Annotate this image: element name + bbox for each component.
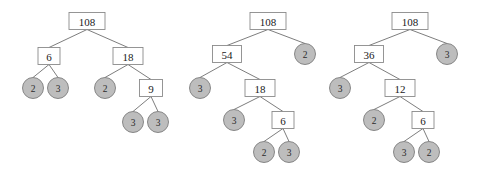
node-value-label: 9	[148, 83, 154, 95]
tree-node-108: 108	[250, 13, 286, 30]
tree-node-3: 3	[330, 78, 351, 99]
tree-node-3: 3	[48, 78, 69, 99]
factor-trees-canvas: 10861823293310854231836231083633122632	[0, 0, 480, 173]
node-value-label: 36	[364, 49, 376, 61]
node-value-label: 3	[402, 148, 407, 158]
node-value-label: 2	[31, 84, 36, 94]
tree-1-nodes: 108618232933	[23, 13, 169, 133]
tree-node-2: 2	[23, 78, 44, 99]
tree-node-6: 6	[38, 48, 60, 65]
tree-node-3: 3	[279, 142, 300, 163]
factor-trees-figure: 10861823293310854231836231083633122632	[0, 0, 480, 173]
node-value-label: 18	[255, 83, 267, 95]
tree-edge	[268, 30, 305, 44]
node-value-label: 3	[338, 84, 343, 94]
tree-node-18: 18	[113, 48, 143, 65]
tree-node-3: 3	[224, 110, 245, 131]
tree-node-2: 2	[364, 110, 385, 131]
node-value-label: 2	[103, 84, 108, 94]
node-value-label: 108	[402, 16, 419, 28]
node-value-label: 3	[131, 118, 136, 128]
tree-edge	[133, 97, 151, 112]
node-value-label: 6	[420, 115, 426, 127]
tree-node-3: 3	[437, 44, 458, 65]
tree-3-nodes: 1083633122632	[330, 13, 458, 163]
tree-edge	[200, 63, 227, 78]
tree-node-3: 3	[394, 142, 415, 163]
tree-node-2: 2	[254, 142, 275, 163]
tree-edge	[260, 97, 283, 112]
tree-edge	[369, 63, 400, 80]
tree-node-36: 36	[355, 46, 384, 63]
tree-edge	[227, 30, 268, 46]
tree-edge	[374, 97, 400, 110]
node-value-label: 2	[303, 50, 308, 60]
node-value-label: 6	[280, 115, 286, 127]
tree-edge	[404, 129, 423, 142]
tree-edge	[87, 30, 128, 48]
tree-edge	[369, 30, 410, 46]
node-value-label: 12	[395, 83, 406, 95]
node-value-label: 108	[260, 16, 277, 28]
tree-edge	[105, 65, 128, 78]
tree-node-3: 3	[123, 112, 144, 133]
tree-node-3: 3	[148, 112, 169, 133]
tree-edge	[234, 97, 260, 110]
tree-node-6: 6	[412, 112, 434, 129]
tree-node-9: 9	[140, 80, 163, 97]
tree-edge	[410, 30, 447, 44]
tree-edge	[128, 65, 151, 80]
nodes-layer: 10861823293310854231836231083633122632	[23, 13, 458, 163]
tree-edge	[340, 63, 369, 78]
tree-node-108: 108	[392, 13, 428, 30]
tree-edge	[264, 129, 283, 142]
node-value-label: 2	[262, 148, 267, 158]
node-value-label: 108	[79, 16, 96, 28]
tree-edge	[33, 65, 49, 78]
tree-node-12: 12	[385, 80, 415, 97]
node-value-label: 3	[156, 118, 161, 128]
node-value-label: 2	[427, 148, 432, 158]
tree-node-2: 2	[295, 44, 316, 65]
tree-2-nodes: 1085423183623	[190, 13, 316, 163]
tree-node-2: 2	[419, 142, 440, 163]
tree-edge	[49, 30, 87, 48]
tree-node-3: 3	[190, 78, 211, 99]
node-value-label: 3	[232, 116, 237, 126]
node-value-label: 2	[372, 116, 377, 126]
node-value-label: 3	[198, 84, 203, 94]
node-value-label: 18	[123, 51, 135, 63]
tree-edge	[49, 65, 58, 78]
tree-node-54: 54	[213, 46, 242, 63]
tree-edge	[283, 129, 289, 142]
tree-edge	[400, 97, 423, 112]
tree-node-6: 6	[272, 112, 294, 129]
node-value-label: 54	[222, 49, 234, 61]
tree-node-2: 2	[95, 78, 116, 99]
tree-1-edges	[33, 30, 158, 112]
tree-edge	[151, 97, 158, 112]
tree-edge	[423, 129, 429, 142]
tree-node-18: 18	[245, 80, 275, 97]
node-value-label: 6	[46, 51, 52, 63]
node-value-label: 3	[287, 148, 292, 158]
node-value-label: 3	[56, 84, 61, 94]
tree-edge	[227, 63, 260, 80]
node-value-label: 3	[445, 50, 450, 60]
tree-node-108: 108	[69, 13, 105, 30]
